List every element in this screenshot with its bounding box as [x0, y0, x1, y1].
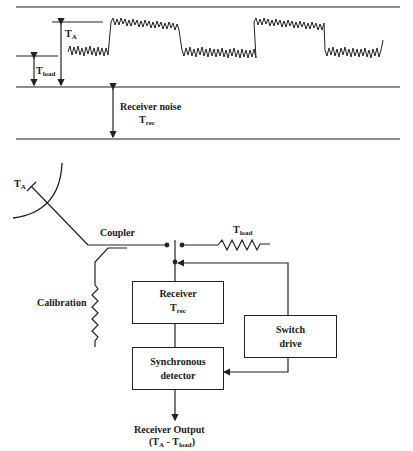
calibration-label: Calibration	[37, 297, 86, 309]
receiver-output-formula: (TA - Tload)	[149, 436, 195, 451]
detector-line1: Synchronous	[150, 355, 205, 369]
t-a-label: TA	[65, 28, 77, 43]
coupler-branch-line	[95, 248, 127, 285]
receiver-title: Receiver	[159, 287, 196, 301]
switch-drive-line1: Switch	[276, 323, 305, 337]
t-rec-label: Trec	[139, 114, 155, 129]
switch-drive-line2: drive	[279, 337, 301, 351]
calibration-resistor	[92, 285, 98, 347]
antenna-t-a-label: TA	[14, 178, 26, 193]
switch-drive-to-detector-line	[224, 357, 288, 372]
antenna-feed-line	[31, 186, 88, 245]
receiver-output-label: Receiver Output	[134, 424, 205, 436]
detector-line2: detector	[161, 369, 196, 383]
t-load-label: Tload	[36, 65, 56, 80]
switch-drive-box: Switch drive	[244, 315, 337, 358]
load-resistor	[218, 240, 270, 250]
receiver-box: Receiver Trec	[132, 281, 224, 324]
switch-contact-antenna	[165, 243, 169, 247]
switch-pivot	[173, 260, 177, 264]
switched-signal-wave	[68, 18, 383, 58]
receiver-noise-label: Receiver noise	[120, 101, 181, 113]
receiver-t-rec: Trec	[170, 301, 186, 318]
load-label: Tload	[233, 224, 253, 239]
coupler-label: Coupler	[100, 227, 135, 239]
synchronous-detector-box: Synchronous detector	[132, 347, 224, 390]
